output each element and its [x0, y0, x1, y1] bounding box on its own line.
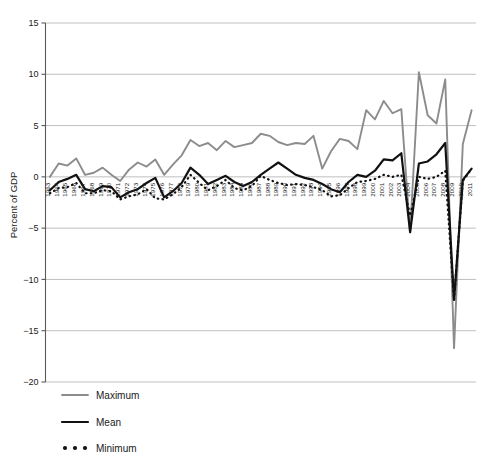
y-tick-label-0: 0: [33, 172, 38, 182]
x-tick-label-1986: 1986: [246, 182, 253, 196]
legend-label-minimum: Minimum: [96, 443, 137, 454]
x-tick-label-2009: 2009: [448, 182, 455, 196]
legend-label-maximum: Maximum: [96, 390, 139, 401]
x-tick-label-1987: 1987: [255, 182, 262, 196]
x-tick-label-1977: 1977: [167, 182, 174, 196]
x-tick-label-1996: 1996: [334, 182, 341, 196]
x-tick-label-2002: 2002: [387, 182, 394, 196]
x-tick-label-1999: 1999: [360, 182, 367, 196]
x-tick-label-1997: 1997: [343, 182, 350, 196]
x-tick-label-1964: 1964: [53, 182, 60, 196]
x-tick-label-1989: 1989: [272, 182, 279, 196]
x-tick-label-1990: 1990: [281, 182, 288, 196]
x-tick-label-1966: 1966: [70, 182, 77, 196]
x-tick-label-2000: 2000: [369, 182, 376, 196]
x-tick-label-1983: 1983: [220, 182, 227, 196]
x-tick-label-1973: 1973: [132, 182, 139, 196]
x-tick-label-1968: 1968: [88, 182, 95, 196]
x-tick-label-1972: 1972: [123, 182, 130, 196]
x-tick-label-1976: 1976: [158, 182, 165, 196]
x-tick-label-1985: 1985: [237, 182, 244, 196]
y-tick-label-5: 5: [33, 121, 38, 131]
x-tick-label-1998: 1998: [351, 182, 358, 196]
x-tick-label-1988: 1988: [264, 182, 271, 196]
x-tick-label-1971: 1971: [114, 182, 121, 196]
x-tick-label-2003: 2003: [395, 182, 402, 196]
y-axis-title: Percent of GDP: [8, 172, 19, 239]
x-tick-label-1978: 1978: [176, 182, 183, 196]
x-axis-labels-group: 1963196419651966196719681969197019711972…: [44, 182, 473, 196]
x-tick-label-1967: 1967: [79, 182, 86, 196]
y-tick-label--5: −5: [28, 223, 38, 233]
y-tick-label-10: 10: [28, 69, 38, 79]
x-tick-label-2011: 2011: [466, 182, 473, 196]
x-tick-label-1995: 1995: [325, 182, 332, 196]
x-tick-label-2005: 2005: [413, 182, 420, 196]
y-tick-label--10: −10: [23, 275, 38, 285]
x-tick-label-1979: 1979: [184, 182, 191, 196]
x-tick-label-1969: 1969: [97, 182, 104, 196]
x-tick-label-2010: 2010: [457, 182, 464, 196]
x-tick-label-1982: 1982: [211, 182, 218, 196]
x-tick-label-1993: 1993: [307, 182, 314, 196]
x-tick-label-2007: 2007: [430, 182, 437, 196]
x-tick-label-1981: 1981: [202, 182, 209, 196]
y-tick-label--15: −15: [23, 326, 38, 336]
x-tick-label-1963: 1963: [44, 182, 51, 196]
chart-figure: 151050−5−10−15−20 Percent of GDP 1963196…: [0, 0, 483, 456]
x-tick-label-1994: 1994: [316, 182, 323, 196]
x-tick-label-1992: 1992: [299, 182, 306, 196]
x-tick-label-1975: 1975: [149, 182, 156, 196]
x-tick-label-2004: 2004: [404, 182, 411, 196]
y-tick-label--20: −20: [23, 377, 38, 387]
x-tick-label-1980: 1980: [193, 182, 200, 196]
x-tick-label-2001: 2001: [378, 182, 385, 196]
x-tick-label-1991: 1991: [290, 182, 297, 196]
legend-label-mean: Mean: [96, 417, 121, 428]
x-tick-label-2008: 2008: [439, 182, 446, 196]
x-tick-label-1984: 1984: [228, 182, 235, 196]
x-tick-label-2006: 2006: [422, 182, 429, 196]
y-tick-label-15: 15: [28, 18, 38, 28]
x-tick-label-1970: 1970: [105, 182, 112, 196]
x-tick-label-1965: 1965: [61, 182, 68, 196]
percent-of-gdp-line-chart: 151050−5−10−15−20 Percent of GDP 1963196…: [0, 0, 483, 456]
x-tick-label-1974: 1974: [141, 182, 148, 196]
